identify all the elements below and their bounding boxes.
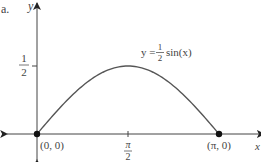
function-label-frac-num: 1	[158, 42, 163, 52]
data-point-label: (π, 0)	[207, 139, 231, 152]
function-label-lhs: y =	[141, 46, 155, 58]
data-point-label: (0, 0)	[40, 139, 64, 152]
function-label-rhs: sin(x)	[166, 46, 192, 59]
chart: a. x y π212 (0, 0)(π, 0) y = 1 2 sin(x)	[0, 0, 261, 162]
figure-label: a.	[1, 2, 9, 16]
y-axis-label: y	[27, 0, 34, 13]
x-tick-label-num: π	[125, 139, 131, 150]
data-point	[216, 131, 222, 137]
series-line-half-sin	[37, 66, 219, 134]
x-tick-label-den: 2	[126, 151, 131, 162]
function-label-frac-den: 2	[158, 53, 163, 63]
data-point	[34, 131, 40, 137]
function-label: y = 1 2 sin(x)	[141, 42, 192, 63]
x-axis-label: x	[254, 140, 260, 152]
y-tick-label-den: 2	[21, 66, 27, 78]
y-tick-label-num: 1	[21, 52, 27, 64]
